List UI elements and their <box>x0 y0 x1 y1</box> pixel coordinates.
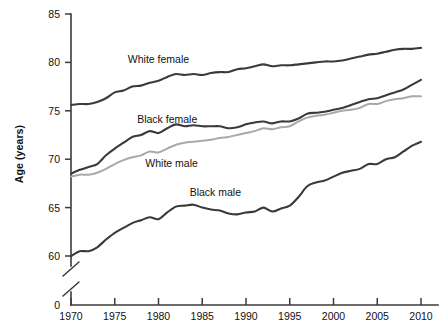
life-expectancy-chart: Age (years) 0606570758085 19701975198019… <box>0 0 446 336</box>
x-tick-label: 1970 <box>59 310 83 322</box>
x-tick-label: 1975 <box>103 310 127 322</box>
x-tick-label: 1980 <box>147 310 171 322</box>
y-tick-label: 80 <box>48 56 60 68</box>
chart-plot-area: 0606570758085 19701975198019851990199520… <box>0 0 446 336</box>
x-tick-label: 2000 <box>322 310 346 322</box>
y-tick-label: 70 <box>48 153 60 165</box>
series-label-white-female: White female <box>128 53 189 65</box>
series-label-white-male: White male <box>145 157 198 169</box>
y-tick-label: 75 <box>48 105 60 117</box>
series-label-black-male: Black male <box>190 186 242 198</box>
y-axis: 0606570758085 <box>48 8 71 311</box>
series-lines <box>71 48 421 256</box>
series-label-black-female: Black female <box>137 113 197 125</box>
series-line-black-male <box>71 142 421 256</box>
x-axis: 197019751980198519901995200020052010 <box>59 298 438 322</box>
x-tick-label: 1995 <box>278 310 302 322</box>
y-tick-label: 65 <box>48 202 60 214</box>
x-tick-label: 2005 <box>366 310 390 322</box>
x-tick-label: 1990 <box>234 310 258 322</box>
x-tick-label: 2010 <box>409 310 433 322</box>
axis-break-icon <box>63 262 79 296</box>
y-tick-label: 85 <box>48 8 60 20</box>
x-tick-label: 1985 <box>191 310 215 322</box>
series-line-white-female <box>71 48 421 105</box>
y-tick-label: 60 <box>48 250 60 262</box>
